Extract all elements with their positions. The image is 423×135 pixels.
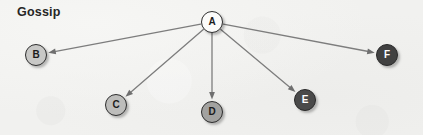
edge-a-to-e — [221, 29, 292, 88]
arrowhead-a-to-b — [48, 48, 56, 54]
graph-node-d[interactable]: D — [201, 101, 223, 123]
graph-node-e[interactable]: E — [294, 89, 316, 111]
graph-node-f[interactable]: F — [376, 44, 398, 66]
graph-node-label: C — [112, 100, 119, 110]
graph-node-label: A — [208, 17, 215, 27]
graph-node-b[interactable]: B — [25, 44, 47, 66]
arrowhead-a-to-f — [367, 48, 375, 54]
arrowhead-a-to-d — [209, 92, 215, 100]
graph-node-label: F — [384, 50, 390, 60]
edge-a-to-c — [129, 30, 203, 94]
graph-node-c[interactable]: C — [105, 94, 127, 116]
gossip-diagram: Gossip ABCDEF — [0, 0, 423, 135]
graph-node-a[interactable]: A — [201, 11, 223, 33]
edge-a-to-b — [53, 24, 200, 52]
graph-node-label: B — [32, 50, 39, 60]
edge-a-to-f — [223, 24, 370, 52]
graph-node-label: D — [208, 107, 215, 117]
graph-node-label: E — [302, 95, 309, 105]
